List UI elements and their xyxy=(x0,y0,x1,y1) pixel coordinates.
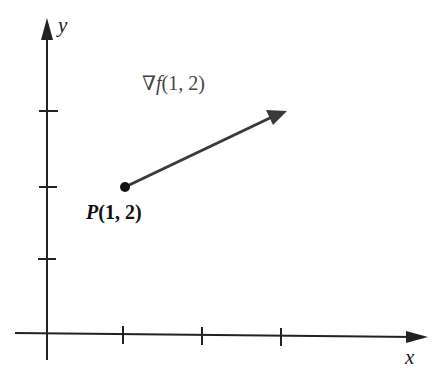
y-axis-label: y xyxy=(58,15,67,36)
point-name: P xyxy=(86,201,98,223)
gradient-label: ∇f(1, 2) xyxy=(142,73,205,93)
point-p xyxy=(120,182,130,192)
gradient-vector xyxy=(125,117,272,187)
gradient-coords: (1, 2) xyxy=(162,72,205,94)
y-axis-arrowhead xyxy=(41,18,53,40)
point-coords: (1, 2) xyxy=(98,201,141,223)
gradient-symbol: ∇f xyxy=(142,72,162,94)
x-axis-arrowhead xyxy=(406,331,428,343)
coordinate-plane xyxy=(0,0,439,373)
point-label: P(1, 2) xyxy=(86,202,142,222)
x-axis xyxy=(15,333,415,337)
x-axis-label: x xyxy=(405,347,414,368)
